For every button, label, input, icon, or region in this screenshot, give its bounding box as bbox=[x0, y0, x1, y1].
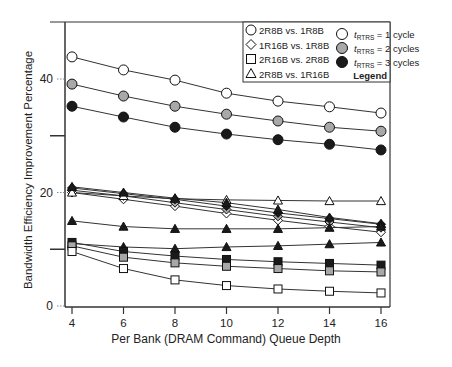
series-markers bbox=[67, 52, 386, 297]
circle-marker bbox=[273, 116, 283, 126]
square-marker bbox=[223, 282, 231, 290]
square-marker bbox=[120, 265, 128, 273]
circle-marker bbox=[222, 109, 232, 119]
square-marker bbox=[326, 287, 334, 295]
x-axis-label: Per Bank (DRAM Command) Queue Depth bbox=[111, 332, 340, 346]
circle-marker bbox=[222, 88, 232, 98]
circle-marker bbox=[119, 91, 129, 101]
triangle-marker bbox=[377, 238, 386, 246]
circle-marker bbox=[273, 96, 283, 106]
circle-marker bbox=[67, 52, 77, 62]
square-marker bbox=[171, 259, 179, 267]
y-ticks: 02040 bbox=[40, 72, 65, 313]
square-marker bbox=[326, 259, 334, 267]
circle-marker bbox=[376, 108, 386, 118]
square-marker bbox=[68, 248, 76, 256]
x-tick-label: 6 bbox=[120, 317, 126, 329]
triangle-marker bbox=[68, 216, 77, 224]
y-tick-label: 0 bbox=[46, 299, 53, 313]
circle-marker bbox=[325, 122, 335, 132]
circle-marker bbox=[67, 101, 77, 111]
circle-marker bbox=[337, 43, 348, 54]
square-marker bbox=[274, 285, 282, 293]
square-marker bbox=[377, 268, 385, 276]
circle-marker bbox=[376, 145, 386, 155]
chart: 02040 46810121416 Per Bank (DRAM Command… bbox=[0, 0, 452, 367]
y-tick-label: 20 bbox=[40, 186, 54, 200]
square-marker bbox=[120, 253, 128, 261]
legend-shape-label: 2R8B vs. 1R8B bbox=[259, 25, 324, 36]
square-marker bbox=[171, 276, 179, 284]
circle-marker bbox=[170, 101, 180, 111]
legend: 2R8B vs. 1R8B1R16B vs. 1R8B2R16B vs. 2R8… bbox=[243, 22, 420, 82]
y-axis-label: Bandwidth Efficiency Improvement Percent… bbox=[22, 51, 34, 289]
x-ticks: 46810121416 bbox=[69, 307, 388, 329]
x-tick-label: 10 bbox=[220, 317, 233, 329]
legend-shape-label: 2R8B vs. 1R16B bbox=[259, 69, 329, 80]
circle-marker bbox=[273, 135, 283, 145]
legend-shape-label: 1R16B vs. 1R8B bbox=[259, 40, 329, 51]
series-markers-group bbox=[68, 182, 386, 227]
square-marker bbox=[247, 55, 256, 64]
x-tick-label: 14 bbox=[323, 317, 336, 329]
legend-title: Legend bbox=[353, 70, 387, 81]
circle-marker bbox=[325, 102, 335, 112]
circle-marker bbox=[170, 75, 180, 85]
square-marker bbox=[377, 289, 385, 297]
legend-shape-label: 2R16B vs. 2R8B bbox=[259, 54, 329, 65]
circle-marker bbox=[337, 29, 348, 40]
square-marker bbox=[326, 267, 334, 275]
square-marker bbox=[274, 265, 282, 273]
circle-marker bbox=[337, 57, 348, 68]
x-tick-label: 12 bbox=[272, 317, 285, 329]
circle-marker bbox=[222, 129, 232, 139]
circle-marker bbox=[325, 139, 335, 149]
circle-marker bbox=[119, 112, 129, 122]
circle-marker bbox=[67, 79, 77, 89]
circle-marker bbox=[119, 65, 129, 75]
circle-marker bbox=[376, 126, 386, 136]
y-tick-label: 40 bbox=[40, 72, 54, 86]
x-tick-label: 4 bbox=[69, 317, 76, 329]
circle-marker bbox=[170, 122, 180, 132]
x-tick-label: 16 bbox=[375, 317, 388, 329]
x-tick-label: 8 bbox=[172, 317, 178, 329]
square-marker bbox=[223, 262, 231, 270]
circle-marker bbox=[246, 25, 256, 35]
